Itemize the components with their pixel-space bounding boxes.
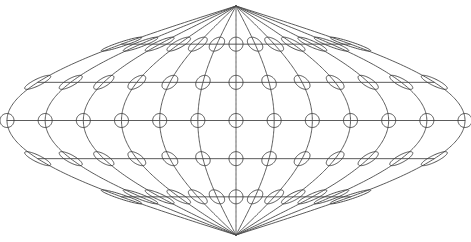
- map-canvas: [0, 0, 471, 242]
- map-background: [0, 0, 471, 242]
